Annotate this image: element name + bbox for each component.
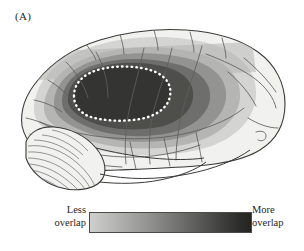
legend-less-line1: Less [67, 204, 86, 215]
legend-more-line2: overlap [252, 217, 284, 228]
legend-gradient-bar [89, 212, 252, 233]
legend-less-line2: overlap [55, 217, 87, 228]
brain-svg [0, 14, 304, 200]
legend-label-more-overlap: More overlap [252, 203, 304, 229]
overlap-colorbar-legend: Less overlap More overlap [0, 203, 304, 243]
brain-illustration [0, 14, 304, 200]
figure-panel-a: (A) [0, 0, 304, 251]
legend-label-less-overlap: Less overlap [24, 203, 86, 229]
legend-more-line1: More [252, 204, 275, 215]
